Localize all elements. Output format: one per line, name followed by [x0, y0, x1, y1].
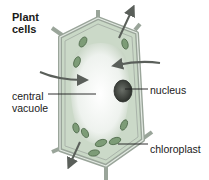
title-line-2: cells — [12, 23, 39, 35]
label-central-vacuole-line2: vacuole — [12, 102, 48, 114]
diagram-title: Plant cells — [12, 11, 39, 35]
label-central-vacuole-line1: central — [12, 90, 48, 102]
title-line-1: Plant — [12, 11, 39, 23]
plant-cell-diagram: Plant cells central vacuole nucleus chlo… — [0, 0, 209, 180]
label-nucleus: nucleus — [150, 84, 186, 96]
label-central-vacuole: central vacuole — [12, 90, 48, 114]
label-chloroplast: chloroplast — [150, 143, 201, 155]
nucleus — [114, 80, 132, 102]
